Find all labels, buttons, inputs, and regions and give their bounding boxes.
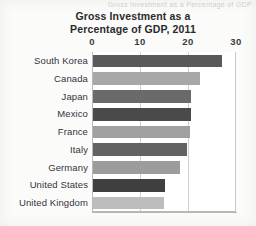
bar-united-kingdom	[93, 197, 164, 210]
x-tick-label-20: 20	[173, 36, 203, 47]
bar-row: France	[0, 123, 256, 141]
category-label-japan: Japan	[62, 88, 88, 106]
x-tick-label-30: 30	[221, 36, 251, 47]
bar-rows: South KoreaCanadaJapanMexicoFranceItalyG…	[0, 52, 256, 212]
x-tick-label-10: 10	[125, 36, 155, 47]
category-label-united-states: United States	[30, 176, 88, 194]
bar-row: Italy	[0, 141, 256, 159]
chart-title-line-2: Percentage of GDP, 2011	[58, 23, 208, 36]
clipped-header-text: Gross Investment as a Percentage of GDP	[0, 0, 256, 9]
category-label-france: France	[58, 123, 88, 141]
bar-row: Japan	[0, 88, 256, 106]
chart-title: Gross Investment as a Percentage of GDP,…	[58, 10, 208, 36]
bar-row: South Korea	[0, 52, 256, 70]
chart-title-line-1: Gross Investment as a	[58, 10, 208, 23]
bar-france	[93, 126, 190, 139]
bar-canada	[93, 72, 200, 85]
category-label-south-korea: South Korea	[34, 52, 88, 70]
category-label-italy: Italy	[70, 141, 88, 159]
category-label-united-kingdom: United Kingdom	[19, 194, 88, 212]
bar-row: Mexico	[0, 105, 256, 123]
chart-figure: Gross Investment as a Percentage of GDP …	[0, 0, 256, 226]
category-label-mexico: Mexico	[57, 105, 88, 123]
bar-row: United Kingdom	[0, 194, 256, 212]
bar-united-states	[93, 179, 165, 192]
x-axis-line	[92, 212, 237, 213]
category-label-germany: Germany	[48, 159, 88, 177]
bar-row: Canada	[0, 70, 256, 88]
bar-italy	[93, 143, 187, 156]
bar-south-korea	[93, 55, 222, 68]
x-tick-label-0: 0	[77, 36, 107, 47]
bar-germany	[93, 161, 180, 174]
bar-row: Germany	[0, 159, 256, 177]
bar-mexico	[93, 108, 191, 121]
bar-row: United States	[0, 176, 256, 194]
category-label-canada: Canada	[54, 70, 88, 88]
bar-japan	[93, 90, 191, 103]
